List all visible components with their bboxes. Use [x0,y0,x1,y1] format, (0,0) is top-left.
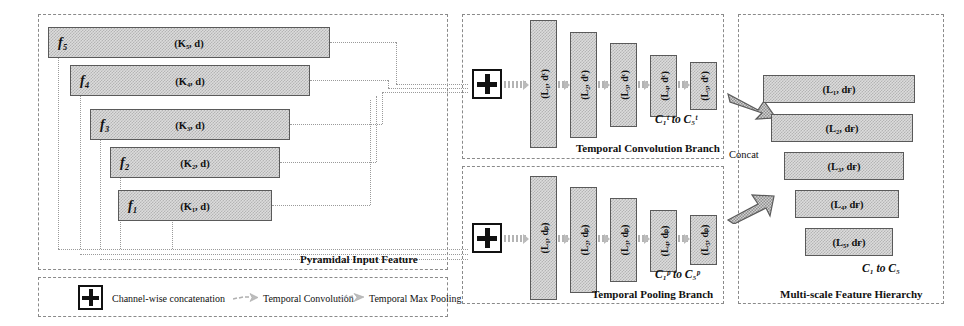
conv-box-2-label: (L₂, dᶜ) [578,70,589,99]
hierarchy-output-label: C₁ to C₅ [862,262,900,274]
connector-f5-v [396,42,397,84]
connector-f1-v [370,100,371,205]
pyramid-box-f1: f₁ (K₁, d) [118,190,272,221]
pyramid-box-f3: f₃ (K₃, d) [90,109,290,140]
pyramid-box-f5: f₅ (K₅, d) [48,27,330,58]
connector-f1-h [272,205,370,206]
connector-f3-down [100,139,101,249]
conv-box-1: (L₁, dᶜ) [530,20,557,148]
pool-box-2-label: (L₂, dₚ) [578,225,589,256]
connector-bottom-bus-1 [58,249,468,250]
arrow-conv-2-3 [598,81,609,88]
hierarchy-box-2-label: (L₂, dғ) [825,123,858,134]
plus-horizontal-stroke [477,236,497,241]
connector-f5-in [396,84,468,85]
arrow-pool-3-4 [638,235,649,242]
panel-temporal-convolution-branch-title: Temporal Convolution Branch [576,142,720,154]
arrow-conv-4-5 [678,81,689,88]
plus-horizontal-stroke [82,296,99,300]
hierarchy-box-4-label: (L₄, dғ) [830,199,863,210]
concat-symbol-pool [472,223,502,253]
conv-box-3-label: (L₃, dᶜ) [618,70,629,99]
pyramid-box-f5-name: f₅ [58,35,68,51]
connector-f4-h [310,80,388,81]
hierarchy-box-1-label: (L₁, dғ) [822,84,855,95]
pool-box-4: (L₄, dₚ) [650,210,677,272]
conv-box-5-label: (L₅, dᶜ) [698,71,709,100]
arrow-pool-1-2 [558,235,569,242]
pyramid-box-f2-dims: (K₂, d) [180,157,209,168]
connector-f5-h [330,42,396,43]
panel-temporal-pooling-branch-title: Temporal Pooling Branch [592,288,713,300]
connector-f5-down [58,57,59,249]
pyramid-box-f2-name: f₂ [120,155,130,171]
pyramid-box-f1-dims: (K₁, d) [180,200,209,211]
conv-box-4-label: (L₄, dᶜ) [658,71,669,100]
pyramid-box-f2: f₂ (K₂, d) [110,147,280,178]
pool-box-2: (L₂, dₚ) [570,187,597,293]
hierarchy-box-3-label: (L₃, dғ) [827,161,860,172]
pool-box-1: (L₁, dₚ) [530,176,557,300]
conv-box-1-label: (L₁, dᶜ) [538,69,549,98]
pool-box-5-label: (L₅, dₚ) [698,225,709,256]
arrow-conv-3-4 [638,81,649,88]
legend-icon-dotted-arrow-icon [233,293,259,303]
figure-canvas: f₅ (K₅, d) f₄ (K₄, d) f₃ (K₃, d) f₂ (K₂,… [0,0,964,326]
pool-box-4-label: (L₄, dₚ) [658,226,669,257]
legend-icon-wavy-dotted-arrow-icon [339,293,365,303]
legend-label-concatenation: Channel-wise concatenation [112,293,225,304]
arrow-conv-1-2 [558,81,569,88]
pyramid-box-f4-name: f₄ [80,73,90,89]
arrow-pool-4-5 [678,235,689,242]
pool-box-3-label: (L₃, dₚ) [618,225,629,256]
conv-box-4: (L₄, dᶜ) [650,55,677,117]
arrow-conv-in [504,81,528,88]
conv-box-3: (L₃, dᶜ) [610,43,637,127]
concat-symbol-conv [472,69,502,99]
panel-pyramidal-input-title: Pyramidal Input Feature [300,253,418,265]
connector-f2-h [280,162,376,163]
arrow-pool-2-3 [598,235,609,242]
pool-box-1-label: (L₁, dₚ) [538,223,549,254]
connector-f4-down [80,95,81,249]
plus-horizontal-stroke [477,82,497,87]
connector-f3-in [382,92,468,93]
conv-branch-output-label: C₁ᵗ to C₅ᵗ [655,113,697,125]
legend-icon-plus-in-box-icon [78,285,103,310]
pyramid-box-f3-name: f₃ [100,117,110,133]
pyramid-box-f4-dims: (K₄, d) [175,75,204,86]
connector-f4-v [388,80,389,88]
legend-label-temporal-max-pooling: Temporal Max Pooling [369,293,462,304]
pyramid-box-f5-dims: (K₅, d) [174,37,203,48]
pyramid-box-f4: f₄ (K₄, d) [70,65,310,96]
connector-f1-down [172,220,173,249]
pool-box-5: (L₅, dₚ) [690,215,717,265]
hierarchy-box-5-label: (L₅, dғ) [832,237,865,248]
panel-multiscale-feature-hierarchy-title: Multi-scale Feature Hierarchy [780,288,923,300]
concat-arrow-lower [726,190,782,224]
pool-branch-output-label: C₁ᵖ to C₅ᵖ [655,268,700,280]
pyramid-box-f3-dims: (K₃, d) [175,119,204,130]
connector-f3-v [382,92,383,124]
hierarchy-box-3: (L₃, dғ) [784,152,904,180]
connector-f4-in [388,88,468,89]
conv-box-2: (L₂, dᶜ) [570,32,597,138]
pyramid-box-f1-name: f₁ [128,198,138,214]
pool-box-3: (L₃, dₚ) [610,198,637,282]
connector-f3-h [290,124,382,125]
conv-box-5: (L₅, dᶜ) [690,62,717,110]
hierarchy-box-5: (L₅, dғ) [805,228,893,256]
hierarchy-box-1: (L₁, dғ) [763,75,915,103]
concat-label: Concat [729,149,759,160]
hierarchy-box-4: (L₄, dғ) [795,190,899,218]
connector-f2-v [376,96,377,162]
hierarchy-box-2: (L₂, dғ) [771,114,913,142]
arrow-pool-in [504,235,528,242]
